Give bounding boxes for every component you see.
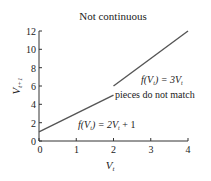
- chart-title: Not continuous: [79, 10, 147, 22]
- y-tick-label: 0: [31, 136, 36, 147]
- y-tick-label: 10: [26, 44, 36, 55]
- y-tick-labels: 0 2 4 6 8 10 12: [26, 26, 36, 147]
- equation-lower: f(Vt) = 2Vt + 1: [78, 119, 135, 131]
- x-tick-label: 3: [149, 144, 154, 155]
- y-axis-label: Vt+1: [10, 78, 24, 95]
- x-axis-label: Vt: [106, 159, 116, 173]
- y-tick-label: 8: [31, 63, 36, 74]
- annotation-mismatch: pieces do not match: [115, 89, 195, 100]
- x-tick-label: 2: [111, 144, 116, 155]
- x-tick-labels: 0 1 2 3 4: [38, 144, 191, 155]
- x-tick-label: 4: [186, 144, 191, 155]
- x-tick-label: 1: [74, 144, 79, 155]
- y-tick-label: 12: [26, 26, 36, 37]
- equation-upper: f(Vt) = 3Vt: [141, 74, 183, 86]
- y-tick-label: 2: [31, 118, 36, 129]
- y-tick-label: 4: [31, 99, 36, 110]
- chart: Not continuous 0 2 4 6 8 10 12 0 1 2 3 4…: [0, 0, 211, 181]
- y-tick-label: 6: [31, 81, 36, 92]
- x-tick-label: 0: [38, 144, 43, 155]
